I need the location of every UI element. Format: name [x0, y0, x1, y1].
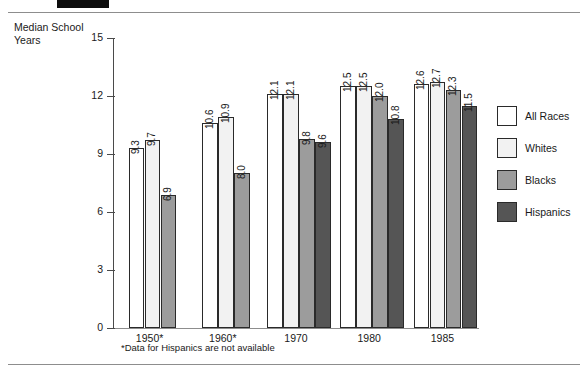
- bar: [299, 139, 315, 328]
- bar: [283, 94, 299, 328]
- header-divider: [8, 12, 580, 13]
- legend-swatch: [497, 202, 517, 222]
- plot-area: 9.39.76.910.610.98.012.112.19.89.612.512…: [113, 38, 479, 328]
- bar: [340, 86, 356, 328]
- legend-label: Blacks: [525, 174, 556, 186]
- legend-label: Hispanics: [525, 206, 571, 218]
- y-axis-tick-label: 12: [73, 89, 103, 101]
- bar-value-label: 12.1: [270, 81, 280, 100]
- legend-item-blacks: Blacks: [497, 164, 571, 196]
- bar: [202, 123, 218, 328]
- legend: All RacesWhitesBlacksHispanics: [497, 100, 571, 228]
- bar: [446, 90, 462, 328]
- figure-badge-block: [57, 0, 109, 8]
- bar: [372, 96, 388, 328]
- bar: [430, 82, 446, 328]
- bar: [161, 195, 177, 328]
- legend-swatch: [497, 170, 517, 190]
- footnote: *Data for Hispanics are not available: [121, 342, 275, 353]
- y-axis-tick: [107, 328, 115, 329]
- bar: [388, 119, 404, 328]
- y-axis-tick-label: 15: [73, 31, 103, 43]
- bar: [414, 84, 430, 328]
- y-axis-tick-label: 3: [73, 263, 103, 275]
- bottom-divider: [8, 364, 580, 365]
- bar-value-label: 9.7: [147, 133, 157, 147]
- bar-value-label: 12.3: [448, 77, 458, 96]
- bar-value-label: 9.8: [302, 131, 312, 145]
- legend-label: All Races: [525, 110, 569, 122]
- bar: [145, 140, 161, 328]
- x-axis-group-label: 1985: [406, 332, 479, 344]
- bar: [315, 142, 331, 328]
- bar-value-label: 6.9: [163, 187, 173, 201]
- y-axis-tick-label: 0: [73, 321, 103, 333]
- bar: [267, 94, 283, 328]
- bar-value-label: 10.8: [391, 106, 401, 125]
- bar-value-label: 12.1: [286, 81, 296, 100]
- bar: [129, 148, 145, 328]
- y-axis-tick-label: 9: [73, 147, 103, 159]
- bar-value-label: 10.9: [221, 104, 231, 123]
- x-axis-group-label: 1980: [333, 332, 406, 344]
- bar-value-label: 10.6: [205, 110, 215, 129]
- x-axis-line: [113, 328, 479, 329]
- bar-value-label: 9.6: [318, 134, 328, 148]
- legend-item-all-races: All Races: [497, 100, 571, 132]
- bar: [234, 173, 250, 328]
- bar-value-label: 8.0: [237, 165, 247, 179]
- figure-number: 12: [22, 0, 50, 5]
- bar: [356, 86, 372, 328]
- y-axis-tick-label: 6: [73, 205, 103, 217]
- legend-label: Whites: [525, 142, 557, 154]
- bar-value-label: 12.6: [416, 71, 426, 90]
- header-strip: 12 1950-1985: [0, 0, 588, 11]
- bar-value-label: 12.7: [432, 69, 442, 88]
- bar-value-label: 12.5: [343, 73, 353, 92]
- legend-item-whites: Whites: [497, 132, 571, 164]
- bar-value-label: 12.0: [375, 83, 385, 102]
- bar: [218, 117, 234, 328]
- legend-swatch: [497, 106, 517, 126]
- bar-value-label: 11.5: [464, 93, 474, 112]
- legend-swatch: [497, 138, 517, 158]
- bar-value-label: 9.3: [131, 140, 141, 154]
- legend-item-hispanics: Hispanics: [497, 196, 571, 228]
- bar: [462, 106, 478, 328]
- bar-value-label: 12.5: [359, 73, 369, 92]
